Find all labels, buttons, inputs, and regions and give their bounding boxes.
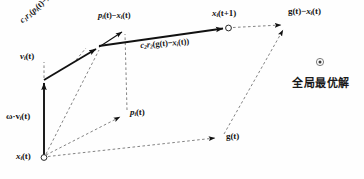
line-origin-to-pbest [46, 117, 120, 155]
label-global-optimum: 全局最优解 [292, 74, 350, 90]
global-optimum-marker [316, 58, 323, 65]
label-x-current: xi(t) [16, 152, 31, 162]
label-inertia-term: ω·vi(t) [6, 112, 30, 122]
line-gbest-to-corner [224, 30, 283, 134]
marker-x-next [226, 25, 232, 31]
pso-vector-diagram: c1r1(pi(t)−xi(0)) vi(t) ω·vi(t) xi(t) pi… [0, 0, 364, 179]
vector-cognitive [44, 49, 96, 80]
line-origin-to-cognitive-tip [46, 50, 99, 154]
label-gbest-difference: g(t)−xi(t) [288, 7, 321, 17]
label-pbest: pi(t) [130, 108, 145, 118]
line-pbest-vertical-guide [125, 34, 127, 110]
label-pbest-difference: pi(t)−xi(t) [98, 11, 130, 21]
solid-vectors [44, 29, 223, 157]
label-velocity: vi(t) [20, 52, 34, 62]
line-xnext-to-gdiff [233, 25, 281, 28]
label-x-next: xi(t+1) [212, 9, 236, 19]
label-gbest: g(t) [226, 132, 239, 141]
marker-x-current [41, 155, 47, 161]
